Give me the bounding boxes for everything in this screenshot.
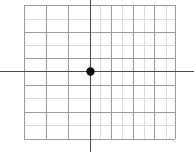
plot-background [0, 0, 194, 152]
chart-canvas [0, 0, 194, 152]
coordinate-grid-plot [0, 0, 194, 152]
origin-dot [86, 67, 94, 75]
